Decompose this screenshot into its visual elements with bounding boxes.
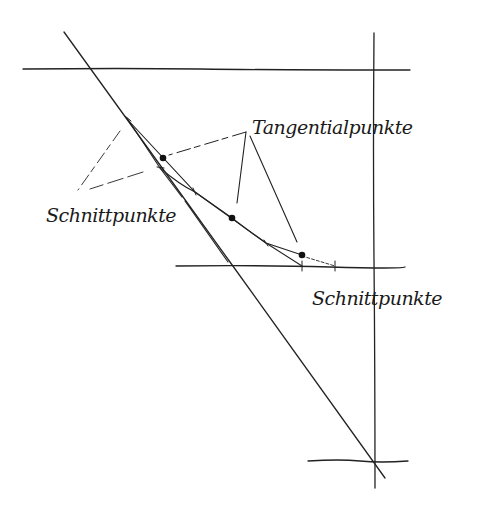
- label-intersection-points-right: Schnittpunkte: [312, 289, 442, 308]
- leader-line-tangent-1: [169, 132, 246, 155]
- right-vertical-line: [374, 33, 376, 488]
- tangent-point-2: [229, 215, 236, 222]
- bottom-horizontal-line: [308, 460, 408, 462]
- construction-diagram: [0, 0, 492, 516]
- top-horizontal-line: [23, 69, 410, 71]
- tangent-point-1: [160, 155, 167, 162]
- middle-horizontal-line: [176, 266, 405, 268]
- tangent-polygon-end: [302, 256, 335, 266]
- label-tangent-points: Tangentialpunkte: [252, 118, 413, 137]
- leader-line-tangent-3: [250, 136, 297, 242]
- leader-line-schnitt-2: [90, 172, 143, 189]
- leader-line-tangent-2: [237, 132, 246, 203]
- tangent-point-3: [299, 252, 306, 259]
- label-intersection-points-left: Schnittpunkte: [46, 206, 176, 225]
- tick-marks: [125, 116, 335, 271]
- long-diagonal-line: [64, 32, 385, 478]
- tangent-points: [160, 155, 306, 259]
- approximated-curve: [160, 168, 302, 255]
